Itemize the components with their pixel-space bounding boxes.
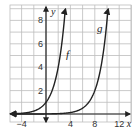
x-tick-label: 12 (114, 119, 124, 129)
y-tick-label: 4 (38, 62, 43, 72)
y-axis-label: y (50, 6, 56, 17)
y-tick-label: 8 (38, 15, 43, 25)
x-tick-label: −4 (16, 119, 26, 129)
curves (11, 9, 109, 114)
axes (12, 7, 130, 122)
y-tick-label: 2 (38, 86, 43, 96)
curve-label-g: g (97, 22, 103, 34)
grid (10, 5, 131, 122)
exponential-graph: −448122468xyfg (0, 0, 139, 132)
x-tick-label: 8 (92, 119, 97, 129)
y-tick-label: 6 (38, 39, 43, 49)
x-tick-label: 4 (68, 119, 73, 129)
x-axis-label: x (126, 118, 132, 129)
